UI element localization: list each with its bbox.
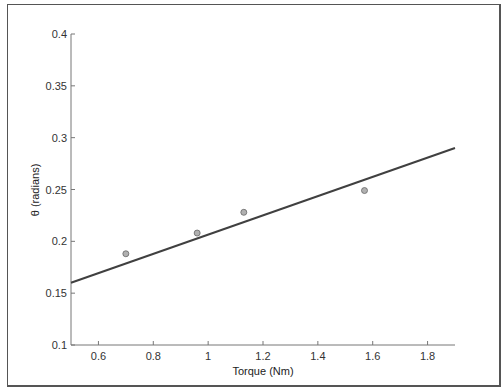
y-tick-label: 0.15 [46, 287, 67, 299]
fit-line [71, 148, 455, 283]
y-axis-label: θ (radians) [29, 164, 41, 217]
data-point [194, 230, 200, 236]
y-tick-label: 0.1 [52, 339, 67, 351]
data-point [123, 251, 129, 257]
x-axis-label: Torque (Nm) [232, 365, 293, 377]
axes: 0.10.150.20.250.30.350.40.60.811.21.41.6… [46, 28, 455, 362]
y-tick-label: 0.25 [46, 184, 67, 196]
y-tick-label: 0.2 [52, 235, 67, 247]
x-tick-label: 1.2 [255, 350, 270, 362]
data-point [241, 209, 247, 215]
y-tick-label: 0.4 [52, 28, 67, 40]
x-tick-label: 0.6 [91, 350, 106, 362]
x-tick-label: 0.8 [146, 350, 161, 362]
y-tick-label: 0.35 [46, 80, 67, 92]
x-tick-label: 1.4 [310, 350, 325, 362]
y-tick-label: 0.3 [52, 132, 67, 144]
data-point [361, 188, 367, 194]
x-tick-label: 1.6 [365, 350, 380, 362]
chart: 0.10.150.20.250.30.350.40.60.811.21.41.6… [0, 0, 503, 392]
plot-area [71, 148, 455, 283]
x-tick-label: 1 [205, 350, 211, 362]
x-tick-label: 1.8 [420, 350, 435, 362]
